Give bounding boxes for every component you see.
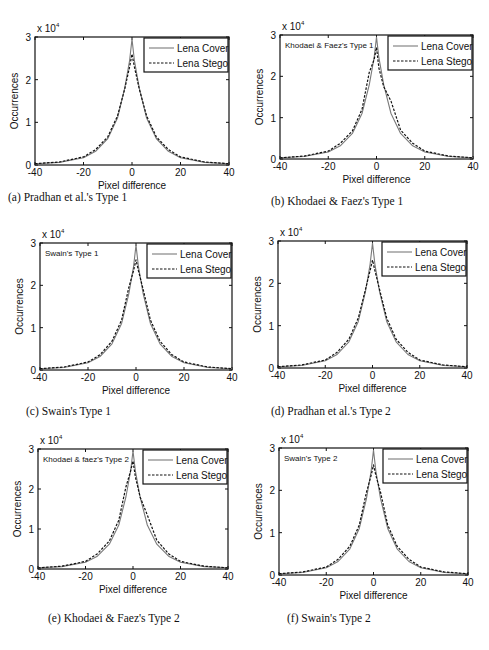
legend-stego-label: Lena Stego: [421, 56, 473, 67]
x-axis-label: Pixel difference: [339, 590, 408, 601]
caption-d: (d) Pradhan et al.'s Type 2: [271, 405, 391, 417]
y-tick-label: 3: [28, 444, 34, 455]
legend-cover-label: Lena Cover: [421, 41, 473, 52]
y-multiplier: x 104: [37, 22, 60, 34]
caption-a: (a) Pradhan et al.'s Type 1: [8, 191, 127, 203]
legend: Lena CoverLena Stego: [143, 450, 228, 484]
y-axis-label: Occurrences: [252, 276, 263, 333]
x-tick-label: 40: [226, 372, 238, 383]
legend-cover-label: Lena Cover: [415, 247, 467, 258]
y-tick-label: 2: [25, 75, 31, 86]
x-tick-label: 0: [129, 167, 135, 178]
x-tick-label: 0: [370, 370, 376, 381]
caption-e: (e) Khodaei & Faez's Type 2: [48, 612, 180, 624]
y-tick-label: 3: [30, 238, 36, 249]
y-multiplier: x 104: [42, 228, 65, 240]
panel-b: -40-20020400123x 104Pixel differenceOccu…: [244, 0, 488, 215]
x-tick-label: 20: [414, 370, 426, 381]
caption-c: (c) Swain's Type 1: [26, 405, 111, 417]
legend-stego-label: Lena Stego: [416, 469, 468, 480]
x-tick-label: -20: [78, 571, 93, 582]
chart-svg: -40-20020400123x 104Pixel differenceOccu…: [0, 0, 244, 215]
inset-label: Khodaei & faez's Type 2: [43, 455, 129, 464]
x-axis-label: Pixel difference: [102, 385, 171, 396]
x-tick-label: 20: [415, 577, 427, 588]
legend-cover-label: Lena Cover: [176, 455, 228, 466]
x-tick-label: 20: [175, 571, 187, 582]
legend-cover-label: Lena Cover: [416, 454, 468, 465]
x-tick-label: 0: [374, 161, 380, 172]
y-axis-label: Occurrences: [254, 69, 265, 126]
chart-svg: -40-20020400123x 104Pixel differenceOccu…: [244, 0, 488, 215]
y-axis-label: Occurrences: [253, 483, 264, 540]
y-multiplier: x 104: [282, 20, 305, 32]
x-axis-label: Pixel difference: [99, 584, 168, 595]
legend-stego-label: Lena Stego: [177, 58, 229, 69]
x-tick-label: 40: [222, 571, 234, 582]
y-tick-label: 0: [28, 564, 34, 575]
x-tick-label: 0: [371, 577, 377, 588]
legend-stego-label: Lena Stego: [415, 262, 467, 273]
y-tick-label: 2: [30, 280, 36, 291]
legend-cover-label: Lena Cover: [177, 43, 229, 54]
chart-svg: -40-20020400123x 104Pixel differenceOccu…: [244, 210, 488, 425]
y-tick-label: 1: [268, 321, 274, 332]
x-tick-label: 40: [462, 577, 474, 588]
y-tick-label: 2: [268, 278, 274, 289]
panel-e: -40-20020400123x 104Pixel differenceOccu…: [0, 425, 244, 640]
y-axis-label: Occurrences: [12, 481, 23, 538]
x-axis-label: Pixel difference: [342, 174, 411, 185]
y-tick-label: 1: [270, 113, 276, 124]
y-tick-label: 0: [25, 160, 31, 171]
y-tick-label: 0: [30, 365, 36, 376]
y-tick-label: 0: [268, 363, 274, 374]
y-tick-label: 1: [30, 323, 36, 334]
panel-c: -40-20020400123x 104Pixel differenceOccu…: [0, 210, 244, 425]
caption-f: (f) Swain's Type 2: [287, 612, 371, 624]
y-multiplier: x 104: [281, 433, 304, 445]
y-tick-label: 2: [269, 485, 275, 496]
legend-cover-label: Lena Cover: [180, 249, 232, 260]
legend: Lena CoverLena Stego: [383, 449, 468, 483]
x-tick-label: 20: [178, 372, 190, 383]
x-tick-label: -20: [321, 161, 336, 172]
y-tick-label: 3: [268, 236, 274, 247]
panel-a: -40-20020400123x 104Pixel differenceOccu…: [0, 0, 244, 215]
caption-b: (b) Khodaei & Faez's Type 1: [271, 195, 403, 207]
y-axis-label: Occurrences: [14, 278, 25, 335]
chart-svg: -40-20020400123x 104Pixel differenceOccu…: [0, 210, 244, 425]
legend: Lena CoverLena Stego: [388, 36, 473, 70]
x-tick-label: 0: [133, 372, 139, 383]
x-tick-label: -20: [319, 577, 334, 588]
y-axis-label: Occurrences: [9, 73, 20, 130]
inset-label: Swain's Type 1: [45, 249, 99, 258]
inset-label: Swain's Type 2: [284, 454, 338, 463]
x-tick-label: 40: [467, 161, 479, 172]
inset-label: Khodaei & Faez's Type 1: [285, 41, 374, 50]
y-tick-label: 0: [270, 154, 276, 165]
y-tick-label: 2: [28, 484, 34, 495]
legend-stego-label: Lena Stego: [176, 470, 228, 481]
x-axis-label: Pixel difference: [98, 180, 167, 191]
x-tick-label: -20: [81, 372, 96, 383]
legend: Lena CoverLena Stego: [382, 242, 467, 276]
x-tick-label: 0: [130, 571, 136, 582]
y-tick-label: 3: [270, 30, 276, 41]
x-tick-label: 20: [175, 167, 187, 178]
y-tick-label: 1: [28, 524, 34, 535]
x-tick-label: 40: [223, 167, 235, 178]
chart-svg: -40-20020400123x 104Pixel differenceOccu…: [244, 425, 488, 640]
x-axis-label: Pixel difference: [338, 383, 407, 394]
y-multiplier: x 104: [280, 226, 303, 238]
x-tick-label: 20: [419, 161, 431, 172]
y-tick-label: 0: [269, 570, 275, 581]
y-tick-label: 2: [270, 71, 276, 82]
x-tick-label: -20: [76, 167, 91, 178]
legend: Lena CoverLena Stego: [144, 38, 229, 72]
y-tick-label: 3: [25, 32, 31, 43]
x-tick-label: 40: [461, 370, 473, 381]
panel-d: -40-20020400123x 104Pixel differenceOccu…: [244, 210, 488, 425]
legend: Lena CoverLena Stego: [147, 244, 232, 278]
y-tick-label: 3: [269, 443, 275, 454]
panel-f: -40-20020400123x 104Pixel differenceOccu…: [244, 425, 488, 640]
